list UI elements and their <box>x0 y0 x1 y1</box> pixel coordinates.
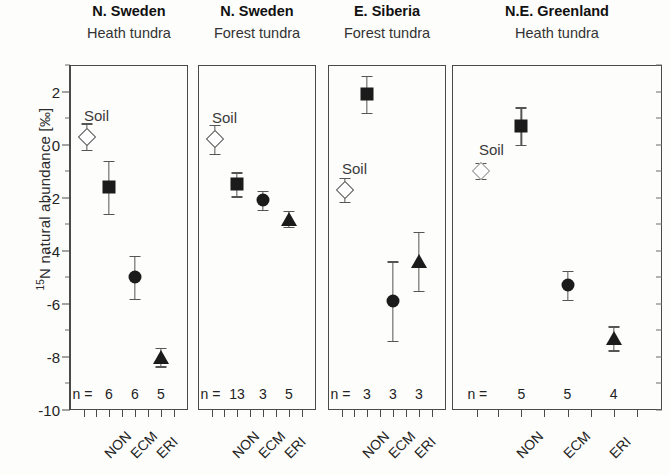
sample-size-value: 3 <box>389 386 397 402</box>
sample-size-prefix: n = <box>73 386 93 402</box>
error-bar-cap <box>413 232 424 233</box>
data-point-circle-icon <box>128 271 141 284</box>
sample-size-value: 6 <box>131 386 139 402</box>
y-tick-label: 0 <box>52 136 60 153</box>
x-tick <box>521 410 522 417</box>
panel-subtitle: Forest tundra <box>328 25 446 41</box>
soil-error-cap <box>81 123 92 124</box>
x-category-label: ERI <box>606 433 634 461</box>
x-tick <box>84 410 85 417</box>
error-bar-cap <box>562 271 573 272</box>
x-tick <box>109 410 110 417</box>
x-tick <box>237 410 238 417</box>
x-tick <box>96 410 97 417</box>
x-tick <box>498 410 499 417</box>
x-tick <box>406 410 407 417</box>
x-tick <box>380 410 381 417</box>
sample-size-value: 6 <box>105 386 113 402</box>
x-tick <box>568 410 569 417</box>
x-tick <box>224 410 225 417</box>
y-tick-label: -6 <box>47 295 60 312</box>
panel-right-tick <box>656 224 662 225</box>
panel-title: N.E. Greenland <box>452 3 662 19</box>
chart-panel: E. SiberiaForest tundran =Soil3NON3ECM3E… <box>328 65 446 410</box>
panel-right-tick <box>656 118 662 119</box>
error-bar-cap <box>257 191 268 192</box>
x-tick <box>342 410 343 417</box>
panel-subtitle: Forest tundra <box>198 25 316 41</box>
x-tick <box>122 410 123 417</box>
error-bar-cap <box>608 350 619 351</box>
x-tick <box>432 410 433 417</box>
x-tick <box>591 410 592 417</box>
x-category-label: ECM <box>385 428 418 461</box>
error-bar-cap <box>129 299 140 300</box>
sample-size-prefix: n = <box>201 386 221 402</box>
x-tick <box>174 410 175 417</box>
panel-right-tick <box>656 356 662 357</box>
sample-size-value: 3 <box>415 386 423 402</box>
error-bar-cap <box>361 76 372 77</box>
sample-size-value: 5 <box>564 386 572 402</box>
error-bar-cap <box>387 341 398 342</box>
x-tick <box>614 410 615 417</box>
soil-label: Soil <box>342 160 367 177</box>
soil-error-cap <box>209 154 220 155</box>
x-tick <box>419 410 420 417</box>
error-bar-cap <box>361 113 372 114</box>
x-tick <box>250 410 251 417</box>
x-tick <box>263 410 264 417</box>
x-tick <box>367 410 368 417</box>
x-category-label: NON <box>359 428 392 461</box>
panel-subtitle: Heath tundra <box>452 25 662 41</box>
error-bar-cap <box>516 107 527 108</box>
panel-right-tick <box>656 197 662 198</box>
figure-root: 15N natural abundance [‰] 20-2-4-6-8-10 … <box>0 0 670 475</box>
error-bar-cap <box>608 326 619 327</box>
chart-panel: N.E. GreenlandHeath tundran =Soil5NON5EC… <box>452 65 662 410</box>
panel-right-tick <box>656 65 662 66</box>
x-category-label: ECM <box>127 428 160 461</box>
y-tick-label: -4 <box>47 242 60 259</box>
panel-right-tick <box>656 410 662 411</box>
error-bar-cap <box>103 161 114 162</box>
data-point-square-icon <box>360 88 373 101</box>
data-point-square-icon <box>230 178 243 191</box>
soil-label: Soil <box>479 141 504 158</box>
error-bar-cap <box>231 196 242 197</box>
data-point-circle-icon <box>256 194 269 207</box>
error-bar-cap <box>413 291 424 292</box>
sample-size-value: 5 <box>517 386 525 402</box>
y-tick-label: -10 <box>38 402 60 419</box>
x-tick <box>637 410 638 417</box>
soil-error-cap <box>339 178 350 179</box>
x-tick <box>289 410 290 417</box>
x-tick <box>477 410 478 417</box>
y-tick-label: -8 <box>47 348 60 365</box>
error-bar-cap <box>231 172 242 173</box>
sample-size-value: 3 <box>363 386 371 402</box>
x-tick <box>148 410 149 417</box>
panel-title: N. Sweden <box>70 3 188 19</box>
error-bar-cap <box>387 261 398 262</box>
panel-frame <box>328 65 446 410</box>
soil-error-cap <box>209 125 220 126</box>
error-bar-cap <box>283 227 294 228</box>
x-category-label: NON <box>101 428 134 461</box>
error-bar-cap <box>155 366 166 367</box>
data-point-triangle-icon <box>411 254 427 268</box>
error-bar-cap <box>257 210 268 211</box>
soil-error-cap <box>339 202 350 203</box>
panel-frame <box>452 65 662 410</box>
panel-right-tick <box>656 303 662 304</box>
error-bar-cap <box>562 300 573 301</box>
data-point-square-icon <box>515 120 528 133</box>
chart-panel: N. SwedenForest tundran =Soil13NON3ECM5E… <box>198 65 316 410</box>
error-bar-cap <box>155 348 166 349</box>
panel-right-tick <box>656 171 662 172</box>
data-point-triangle-icon <box>153 350 169 364</box>
soil-error-cap <box>81 150 92 151</box>
sample-size-value: 3 <box>259 386 267 402</box>
panel-right-tick <box>656 330 662 331</box>
x-tick <box>302 410 303 417</box>
